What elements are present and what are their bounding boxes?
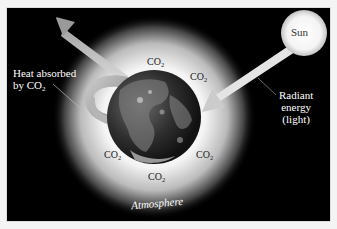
co2-marker-top: CO2 <box>147 57 164 70</box>
radiant-label-pointer <box>258 78 276 95</box>
co2-marker-bottom: CO2 <box>148 172 165 185</box>
heat-absorbed-line2: by CO2 <box>13 79 76 95</box>
co2-marker-top-right: CO2 <box>190 72 207 85</box>
heat-absorbed-label: Heat absorbed by CO2 <box>13 67 76 95</box>
sun-label: Sun <box>291 26 308 38</box>
co2-marker-bottom-left: CO2 <box>104 150 121 163</box>
co2-marker-bottom-right: CO2 <box>196 150 213 163</box>
heat-absorbed-line1: Heat absorbed <box>13 67 76 79</box>
radiant-energy-label: Radiant energy (light) <box>279 89 313 125</box>
